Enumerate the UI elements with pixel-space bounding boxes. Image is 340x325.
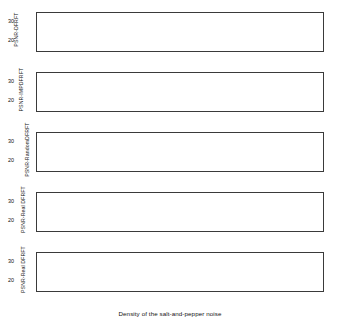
y-tick-label-30-1: 30 [8,19,14,24]
plot-area-1 [36,12,324,52]
y-tick-label-20-2: 20 [8,98,14,103]
y-tick-label-30-5: 30 [8,259,14,264]
y-axis-label-text-3: PSNR-RandomDFRFT [25,123,30,177]
y-tick-label-30-3: 30 [8,139,14,144]
y-tick-label-20-5: 20 [8,278,14,283]
x-tick-labels-5 [0,293,340,303]
subplot-panel-5: PSNR-Real DFRFT 30 20 [0,240,340,300]
y-axis-label-text-1: PSNR-DFRFT [14,13,19,47]
plot-area-4 [36,192,324,232]
y-axis-label-text-5: PSNR-Real DFRFT [21,247,26,294]
plot-area-3 [36,132,324,172]
subplot-panel-3: PSNR-RandomDFRFT 30 20 [0,120,340,180]
plot-area-2 [36,72,324,112]
x-axis-title: Density of the salt-and-pepper noise [0,310,340,317]
y-axis-label-text-2: PSNR-IMPDFRFT [19,68,24,112]
y-tick-label-30-2: 30 [8,79,14,84]
subplot-panel-4: PSNR-Real DFRFT 30 20 [0,180,340,240]
y-tick-label-20-1: 20 [8,38,14,43]
y-axis-label-text-4: PSNR-Real DFRFT [21,187,26,234]
subplot-panel-1: PSNR-DFRFT 30 20 [0,0,340,60]
matlab-figure: PSNR-DFRFT 30 20 PSNR-IMPDFRFT 30 20 PSN… [0,0,340,325]
y-tick-label-20-3: 20 [8,158,14,163]
subplot-panel-2: PSNR-IMPDFRFT 30 20 [0,60,340,120]
plot-area-5 [36,252,324,292]
y-tick-label-30-4: 30 [8,199,14,204]
y-tick-label-20-4: 20 [8,218,14,223]
